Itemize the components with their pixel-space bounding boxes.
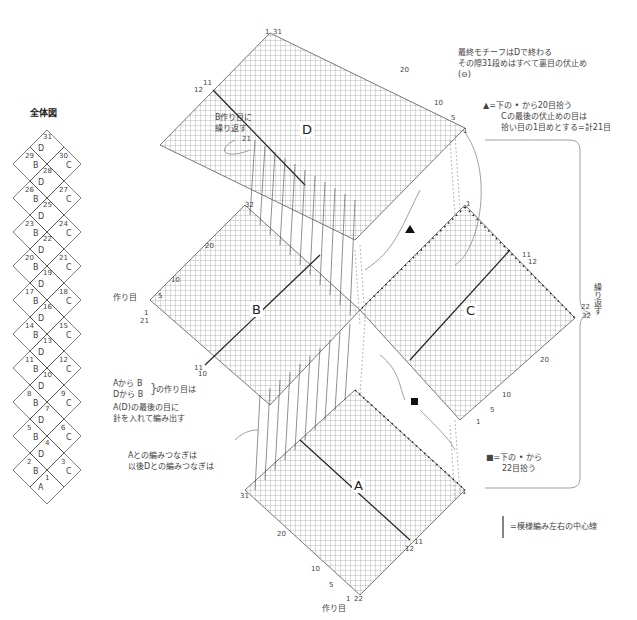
c-num: 22: [581, 303, 590, 311]
b-num: 10: [171, 276, 180, 284]
a-num: 10: [311, 565, 320, 573]
c-num: 10: [502, 391, 511, 399]
motif-a-label: A: [352, 478, 365, 493]
a-num: 1: [346, 595, 350, 603]
b-num: 1: [144, 309, 148, 317]
c-num: 1: [476, 418, 480, 426]
d-num: 31: [273, 28, 282, 36]
a-num: 31: [240, 492, 249, 500]
note-repeat-vertical: 繰り返す: [591, 283, 602, 315]
a-num: 22: [354, 595, 363, 603]
overview-title: 全体図: [30, 106, 57, 119]
note-cast-on-detail: A(D)の最後の目に 針を入れて編み出す: [113, 402, 185, 424]
motif-c-label: C: [464, 303, 477, 318]
note-final-motif: 最終モチーフはDで終わる その際31段めはすべて裏目の伏止め (⊖): [458, 47, 587, 80]
d-num: 5: [451, 114, 455, 122]
d-num: 11: [203, 79, 212, 87]
d-num: 20: [400, 66, 409, 74]
b-num: 10: [198, 370, 207, 378]
cast-on-label-a: 作り目: [322, 603, 346, 614]
note-cast-on: Aから B Dから B: [113, 378, 143, 400]
c-num: 12: [528, 258, 537, 266]
a-num: 20: [277, 530, 286, 538]
b-num: 21: [140, 317, 149, 325]
b-num: 20: [205, 242, 214, 250]
note-b-repeat: B作り目に 繰り返す: [215, 112, 253, 134]
legend-center-line-label: =模様編み左右の中心線: [510, 521, 597, 532]
b-num: 32: [245, 201, 254, 209]
note-square: ■=下の • から 22目拾う: [486, 452, 542, 474]
cast-on-label-b: 作り目: [113, 292, 137, 303]
a-num: 12: [405, 545, 414, 553]
d-num: 10: [434, 99, 443, 107]
c-num: 32: [582, 312, 591, 320]
a-num: 1: [462, 488, 466, 496]
a-num: 5: [329, 581, 333, 589]
d-num: 1: [463, 127, 467, 135]
b-num: 5: [158, 292, 162, 300]
d-num: 12: [194, 86, 203, 94]
c-num: 1: [466, 200, 470, 208]
c-num: 20: [540, 356, 549, 364]
motif-d-label: D: [300, 122, 314, 137]
overview-diamonds: [13, 130, 81, 504]
c-num: 5: [490, 406, 494, 414]
triangle-marker-icon: [405, 225, 415, 233]
motif-b-label: B: [250, 302, 263, 317]
square-marker-icon: [411, 398, 418, 405]
d-num: 1: [265, 28, 269, 36]
note-triangle: ▲=下の • から20目拾う Cの最後の伏止めの目は 拾い目の1目めとする=計2…: [483, 100, 611, 133]
d-num: 21: [242, 135, 251, 143]
note-cast-on-brace: の作り目は: [156, 384, 196, 395]
note-join: Aとの編みつなぎは 以後Dとの編みつなぎは: [128, 450, 214, 472]
a-num: 11: [414, 538, 423, 546]
